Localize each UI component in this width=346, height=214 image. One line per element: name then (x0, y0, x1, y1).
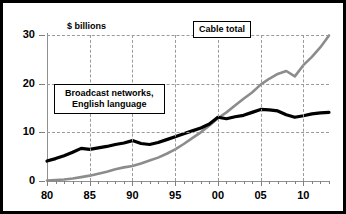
gridline-vertical (261, 35, 262, 181)
x-axis-tick (303, 181, 304, 186)
x-axis-minor-tick (295, 181, 296, 184)
annotation-broadcast-networks: Broadcast networks, English language (54, 84, 165, 114)
y-axis-tick (39, 181, 45, 182)
annotation-broadcast-line1: Broadcast networks, (65, 88, 154, 99)
y-axis-unit-label: $ billions (67, 21, 106, 31)
x-axis-tick-label: 10 (291, 189, 315, 201)
x-axis-minor-tick (320, 181, 321, 184)
x-axis-minor-tick (278, 181, 279, 184)
x-axis-tick-label: 80 (35, 189, 59, 201)
gridline-vertical (303, 35, 304, 181)
x-axis-minor-tick (252, 181, 253, 184)
y-axis-tick-label: 10 (15, 126, 35, 137)
annotation-cable-total-line1: Cable total (199, 24, 245, 35)
x-axis-minor-tick (56, 181, 57, 184)
x-axis-minor-tick (141, 181, 142, 184)
y-axis-tick-label: 30 (15, 29, 35, 40)
x-axis-minor-tick (158, 181, 159, 184)
x-axis-tick (47, 181, 48, 186)
x-axis-tick (218, 181, 219, 186)
x-axis-minor-tick (81, 181, 82, 184)
y-axis-tick-label: 0 (15, 175, 35, 186)
chart-frame: $ billions 010203080859095000510 Cable t… (0, 0, 346, 214)
y-axis-tick (39, 35, 45, 36)
x-axis-tick-label: 85 (78, 189, 102, 201)
annotation-broadcast-line2: English language (65, 99, 154, 110)
x-axis-tick-label: 90 (120, 189, 144, 201)
x-axis-minor-tick (235, 181, 236, 184)
x-axis-minor-tick (167, 181, 168, 184)
gridline-vertical (175, 35, 176, 181)
x-axis-tick (132, 181, 133, 186)
x-axis-minor-tick (269, 181, 270, 184)
x-axis-minor-tick (201, 181, 202, 184)
x-axis-minor-tick (286, 181, 287, 184)
x-axis-minor-tick (98, 181, 99, 184)
chart-inner-panel: $ billions 010203080859095000510 Cable t… (9, 9, 343, 211)
x-axis-tick (90, 181, 91, 186)
x-axis-minor-tick (329, 181, 330, 184)
x-axis-minor-tick (64, 181, 65, 184)
x-axis-minor-tick (150, 181, 151, 184)
x-axis-minor-tick (184, 181, 185, 184)
annotation-cable-total: Cable total (193, 21, 251, 38)
x-axis-minor-tick (115, 181, 116, 184)
y-axis-tick-label: 20 (15, 78, 35, 89)
x-axis-minor-tick (124, 181, 125, 184)
y-axis-tick (39, 84, 45, 85)
x-axis-minor-tick (312, 181, 313, 184)
x-axis-minor-tick (209, 181, 210, 184)
x-axis-minor-tick (226, 181, 227, 184)
x-axis-tick-label: 05 (249, 189, 273, 201)
x-axis-tick-label: 95 (163, 189, 187, 201)
x-axis-minor-tick (192, 181, 193, 184)
gridline-vertical (218, 35, 219, 181)
x-axis-minor-tick (73, 181, 74, 184)
x-axis-minor-tick (244, 181, 245, 184)
y-axis-tick (39, 132, 45, 133)
x-axis-minor-tick (107, 181, 108, 184)
x-axis-tick (261, 181, 262, 186)
x-axis-tick (175, 181, 176, 186)
x-axis-tick-label: 00 (206, 189, 230, 201)
